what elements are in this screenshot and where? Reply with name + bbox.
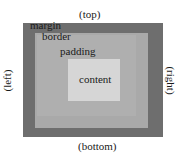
content-label: content — [79, 74, 111, 85]
left-side-label: (left) — [2, 66, 13, 96]
border-label: border — [42, 31, 71, 42]
top-side-label: (top) — [79, 9, 100, 20]
bottom-side-label: (bottom) — [78, 141, 117, 152]
padding-label: padding — [60, 46, 95, 57]
right-side-label: (right) — [165, 66, 176, 96]
